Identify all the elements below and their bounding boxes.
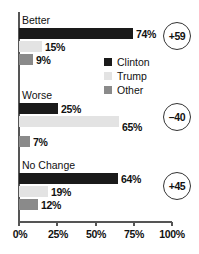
bar-value-worse-clinton: 25% bbox=[61, 103, 81, 115]
group-label-no-change: No Change bbox=[22, 159, 75, 171]
x-tick-25 bbox=[56, 222, 58, 226]
bar-no-change-other bbox=[19, 199, 38, 210]
bar-better-other bbox=[19, 54, 33, 65]
legend-swatch-trump-icon bbox=[104, 72, 112, 80]
legend-item-trump: Trump bbox=[104, 69, 150, 82]
bar-value-no-change-trump: 19% bbox=[51, 186, 71, 198]
bar-worse-trump bbox=[19, 116, 119, 127]
bar-worse-clinton bbox=[19, 103, 58, 114]
bar-value-no-change-clinton: 64% bbox=[121, 173, 141, 185]
legend-label-other: Other bbox=[117, 84, 143, 96]
x-tick-75 bbox=[133, 222, 135, 226]
group-label-better: Better bbox=[22, 14, 50, 26]
x-tick-label-75: 75% bbox=[124, 228, 144, 240]
margin-badge-better: +59 bbox=[163, 22, 191, 50]
bar-worse-other bbox=[19, 136, 30, 147]
margin-badge-no-change: +45 bbox=[163, 172, 191, 200]
x-tick-label-50: 50% bbox=[86, 228, 106, 240]
bar-better-clinton bbox=[19, 28, 133, 39]
legend-swatch-other-icon bbox=[104, 86, 112, 94]
legend-swatch-clinton-icon bbox=[104, 58, 112, 66]
legend-label-trump: Trump bbox=[117, 70, 147, 82]
margin-badge-worse: –40 bbox=[163, 103, 191, 131]
grouped-bar-chart: 0% 25% 50% 75% 100% Better 74% 15% 9% +5… bbox=[0, 0, 199, 254]
bar-no-change-trump bbox=[19, 186, 48, 197]
bar-value-worse-trump: 65% bbox=[122, 121, 142, 133]
x-tick-50 bbox=[95, 222, 97, 226]
x-tick-label-100: 100% bbox=[159, 228, 185, 240]
bar-better-trump bbox=[19, 41, 42, 52]
x-tick-label-0: 0% bbox=[13, 228, 28, 240]
x-tick-0 bbox=[18, 222, 20, 226]
x-tick-label-25: 25% bbox=[48, 228, 68, 240]
bar-value-better-clinton: 74% bbox=[136, 28, 156, 40]
legend-item-clinton: Clinton bbox=[104, 55, 150, 68]
x-tick-100 bbox=[171, 222, 173, 226]
bar-no-change-clinton bbox=[19, 173, 118, 184]
legend-item-other: Other bbox=[104, 83, 150, 96]
legend: Clinton Trump Other bbox=[104, 55, 150, 97]
legend-label-clinton: Clinton bbox=[117, 56, 150, 68]
bar-value-better-trump: 15% bbox=[45, 41, 65, 53]
bar-value-no-change-other: 12% bbox=[41, 199, 61, 211]
bar-value-worse-other: 7% bbox=[33, 136, 48, 148]
group-label-worse: Worse bbox=[22, 89, 52, 101]
bar-value-better-other: 9% bbox=[36, 54, 51, 66]
